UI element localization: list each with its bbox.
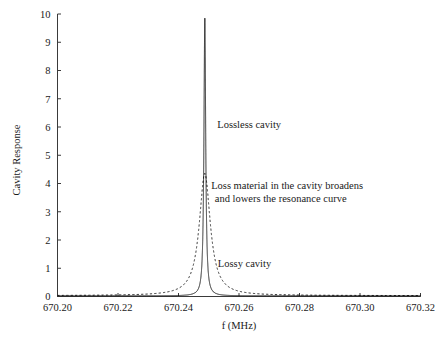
x-tick-labels: 670.20670.22670.24670.26670.28670.30670.… bbox=[43, 302, 435, 313]
x-tick-label-5: 670.30 bbox=[346, 302, 375, 313]
y-tick-label-5: 5 bbox=[45, 150, 50, 161]
lossy-cavity-label: Lossy cavity bbox=[218, 258, 272, 269]
axes bbox=[58, 14, 421, 297]
y-tick-label-2: 2 bbox=[45, 235, 50, 246]
data-curves bbox=[58, 18, 421, 296]
loss-material-note-line2: and lowers the resonance curve bbox=[215, 193, 347, 204]
chart-annotations: Lossless cavityLoss material in the cavi… bbox=[211, 119, 363, 268]
y-tick-labels: 012345678910 bbox=[40, 9, 51, 303]
y-tick-label-10: 10 bbox=[40, 9, 51, 20]
lossless-cavity-curve bbox=[58, 18, 421, 296]
y-axis-title: Cavity Response bbox=[11, 124, 22, 195]
x-tick-label-3: 670.26 bbox=[225, 302, 254, 313]
x-axis-title: f (MHz) bbox=[222, 320, 257, 332]
lossless-cavity-label: Lossless cavity bbox=[217, 119, 282, 130]
y-tick-label-9: 9 bbox=[45, 37, 50, 48]
y-tick-label-8: 8 bbox=[45, 65, 50, 76]
loss-material-note-line1: Loss material in the cavity broadens bbox=[211, 180, 363, 191]
x-tick-label-1: 670.22 bbox=[104, 302, 133, 313]
x-tick-label-2: 670.24 bbox=[164, 302, 194, 313]
chart-canvas: 670.20670.22670.24670.26670.28670.30670.… bbox=[0, 0, 444, 349]
y-tick-label-0: 0 bbox=[45, 291, 50, 302]
y-tick-label-1: 1 bbox=[45, 263, 50, 274]
x-tick-label-0: 670.20 bbox=[43, 302, 72, 313]
x-tick-label-6: 670.32 bbox=[406, 302, 435, 313]
y-tick-label-4: 4 bbox=[45, 178, 51, 189]
y-tick-label-7: 7 bbox=[45, 94, 50, 105]
y-tick-label-6: 6 bbox=[45, 122, 50, 133]
y-tick-label-3: 3 bbox=[45, 207, 50, 218]
tick-marks bbox=[58, 14, 421, 297]
cavity-response-figure: 670.20670.22670.24670.26670.28670.30670.… bbox=[0, 0, 444, 349]
axis-spines bbox=[58, 14, 421, 297]
x-tick-label-4: 670.28 bbox=[285, 302, 314, 313]
